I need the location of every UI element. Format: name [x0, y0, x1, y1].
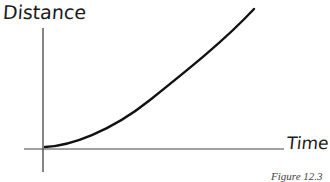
figure-caption: Figure 12.3	[271, 170, 323, 182]
x-axis-label: Time	[286, 133, 330, 153]
distance-curve	[45, 9, 254, 147]
y-axis-label: Distance	[2, 1, 87, 23]
